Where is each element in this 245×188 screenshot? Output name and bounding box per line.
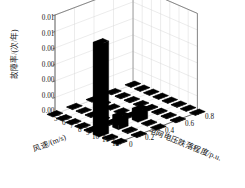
plot-svg (0, 0, 245, 188)
plot-area-3d (0, 0, 245, 188)
failure-rate-3d-bar-chart: 0.012 0.010 0.008 0.006 0.004 0.002 0.00… (0, 0, 245, 188)
